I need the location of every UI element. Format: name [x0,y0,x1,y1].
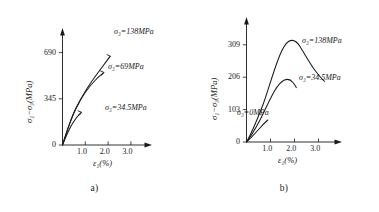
panel-a-y-axis-arrow [60,28,65,36]
panel-b-x-ticks [271,138,319,142]
panel-a-xtick-2: 2.0 [100,147,110,156]
panel-a-curve-138-endcap [107,55,111,60]
panel-b-ytick-206: 206 [217,72,240,81]
panel-b-label-34: σ₃=34.5MPa [299,73,341,82]
panel-b-x-axis-arrow [335,140,343,145]
panel-b-label-138: σ₃=138MPa [302,36,342,45]
panel-a-ytick-0: 0 [38,140,56,149]
panel-a-x-axis-arrow [145,143,153,148]
panel-b-y-axis-title-text: σ₁−σ₃(MPa) [209,78,219,120]
panel-a-xtick-1: 1.0 [77,147,87,156]
panel-b-curve-138 [247,40,325,142]
panel-b-xtick-2: 2.0 [286,144,296,153]
panel-b-y-axis-arrow [244,17,249,25]
panel-a-label-138: σ₃=138MPa [114,27,154,36]
panel-a-x-axis-title: ε₁(%) [93,158,112,168]
panel-a-label-34: σ₃=34.5MPa [105,103,147,112]
panel-b-y-ticks [243,45,247,142]
panel-a-curve-138 [63,57,110,145]
panel-b-caption: b) [189,183,379,193]
panel-a-xtick-3: 3.0 [123,147,133,156]
panel-a-curve-69 [63,73,104,145]
panel-b-xtick-3: 3.0 [310,144,320,153]
panel-b-x-axis-title: ε₁(%) [278,155,297,165]
panel-b-ytick-0: 0 [222,137,240,146]
panel-a-label-69: σ₃=69MPa [108,62,144,71]
panel-b: σ₁−σ₃(MPa) ε₁(%) 0 103 206 309 1.0 2.0 3… [189,0,379,212]
panel-a: σ₁−σ₃(MPa) ε₁(%) 0 345 690 1.0 2.0 3.0 σ… [0,0,189,212]
panel-a-y-ticks [59,53,63,145]
panel-b-y-axis-title: σ₁−σ₃(MPa) [209,78,219,120]
panel-a-caption: a) [0,183,189,193]
panel-a-x-ticks [85,141,131,145]
panel-b-curve-0 [247,120,268,142]
figure-container: σ₁−σ₃(MPa) ε₁(%) 0 345 690 1.0 2.0 3.0 σ… [0,0,379,212]
panel-a-x-axis-title-text: ε₁(%) [93,158,112,168]
panel-b-x-axis-title-text: ε₁(%) [278,155,297,165]
panel-a-ytick-345: 345 [33,94,56,103]
panel-a-ytick-690: 690 [33,48,56,57]
panel-b-ytick-309: 309 [217,40,240,49]
panel-b-label-0: σ₃=0MPa [237,108,269,117]
panel-b-xtick-1: 1.0 [262,144,272,153]
